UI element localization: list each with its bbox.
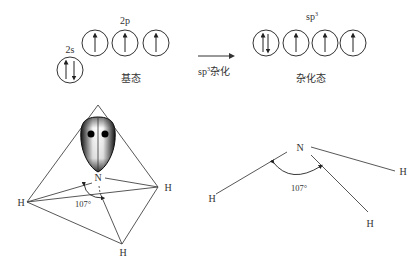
hydrogen-atom-left: H [208,193,215,204]
s-orbital-label: 2s [66,44,75,55]
hydrogen-atom-bottom: H [119,247,126,258]
hydrogen-atom-left: H [17,197,24,208]
lone-pair-lobe [81,117,115,172]
orbital-sp3-1-paired [253,30,279,56]
nh-bonds [216,147,395,212]
bond-angle-arc [273,162,321,175]
p-orbital-label: 2p [120,15,130,26]
orbital-2p-1 [82,30,108,56]
hybrid-state-label: 杂化态 [296,72,326,84]
bond-angle-label: 107° [75,199,91,209]
orbital-2p-3 [143,30,169,56]
hydrogen-atom-right: H [164,182,171,193]
ground-state-label: 基态 [121,72,141,84]
hybrid-state-orbitals: sp3 杂化态 [253,11,366,84]
electron-dot-icon [102,131,109,138]
orbital-sp3-2 [283,30,309,56]
hydrogen-atom-bottom: H [366,218,373,229]
central-atom-n: N [296,142,303,153]
hybridization-label: sp3杂化 [198,65,230,77]
orbital-2s-paired [57,57,83,83]
electron-dot-icon [88,131,95,138]
orbital-sp3-4 [340,30,366,56]
nh3-hybridization-diagram: 2p 2s 基态 sp3杂化 sp3 [0,0,418,272]
hydrogen-atom-right: H [399,166,406,177]
orbital-2p-2 [112,30,138,56]
sp3-orbital-label: sp3 [306,11,318,22]
orbital-sp3-3 [312,30,338,56]
ground-state-orbitals: 2p 2s 基态 [57,15,169,84]
tetrahedral-nh3-model: N H H H 107° [17,105,171,258]
pyramidal-nh3-model: N H H H 107° [208,142,406,229]
bond-angle-label: 107° [291,183,307,193]
hybridization-arrow: sp3杂化 [198,56,232,77]
central-atom-n: N [94,172,101,183]
